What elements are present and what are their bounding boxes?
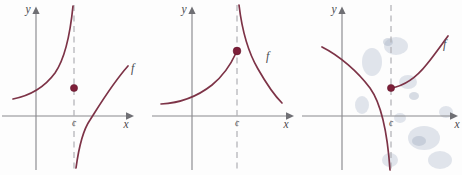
panel-2-point-at-c [233, 47, 241, 55]
graph-panel-2: y x c f [150, 0, 300, 175]
panel-3-x-axis [302, 112, 458, 119]
panel-3-x-axis-label: x [453, 118, 460, 130]
panel-3-c-label: c [389, 118, 394, 128]
panel-2-left-branch [161, 53, 236, 104]
panel-1-x-axis [2, 112, 134, 119]
panel-2-x-axis-label: x [282, 118, 289, 130]
panel-2-y-axis [188, 7, 195, 171]
panel-2-function-label: f [266, 49, 271, 63]
panel-3-function-label: f [443, 37, 448, 51]
panel-1-point-at-c [70, 84, 77, 91]
panel-3-y-axis [338, 7, 345, 171]
panel-2-x-axis [152, 112, 294, 119]
panel-3-point-at-c [387, 84, 394, 91]
panel-1-left-branch [13, 6, 73, 99]
panel-1-y-axis-label: y [24, 3, 31, 16]
panel-1-c-label: c [72, 118, 77, 128]
graph-panel-1: y x c f [0, 0, 150, 175]
panel-1-svg: y x c f [0, 0, 150, 175]
panel-1-function-label: f [131, 61, 136, 75]
panel-2-y-axis-label: y [180, 3, 187, 16]
panel-2-svg: y x c f [150, 0, 300, 175]
panel-1-right-branch [76, 66, 128, 168]
figure-three-discontinuity-graphs: y x c f y [0, 0, 462, 175]
panel-2-right-branch [239, 5, 282, 103]
panel-1-x-axis-label: x [122, 118, 129, 130]
panel-2-c-label: c [235, 118, 240, 128]
graph-panel-3: y x c f [300, 0, 462, 175]
scan-artifact-speckles [355, 37, 453, 169]
panel-3-svg: y x c f [300, 0, 462, 175]
panel-3-y-axis-label: y [330, 3, 337, 16]
